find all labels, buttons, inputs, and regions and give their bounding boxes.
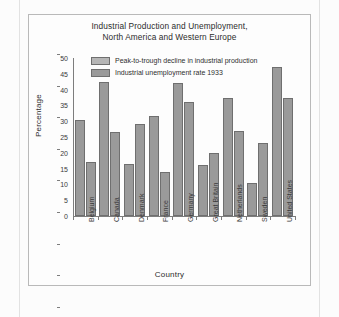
y-tick-mark-10 <box>57 54 60 55</box>
y-tick-mark-5 <box>57 212 60 213</box>
legend-label-1: Industrial unemployment rate 1933 <box>115 69 223 76</box>
legend-swatch-icon-1 <box>91 69 110 77</box>
chart-title-line-2: North America and Western Europe <box>29 32 310 43</box>
y-tick-mark-2 <box>57 307 60 308</box>
x-tick-mark-3 <box>147 216 148 220</box>
y-tick-label-5: 25 <box>60 134 73 141</box>
page-edge-left <box>19 0 20 317</box>
bar-4-series-0 <box>173 83 183 216</box>
y-tick-mark-7 <box>57 149 60 150</box>
chart-figure: Industrial Production and Unemployment, … <box>28 14 311 286</box>
chart-title: Industrial Production and Unemployment, … <box>29 21 310 43</box>
x-tick-mark-end <box>295 216 296 220</box>
x-category-label-5: Great Britain <box>212 183 219 222</box>
legend-label-0: Peak-to-trough decline in industrial pro… <box>115 57 257 64</box>
x-tick-mark-7 <box>246 216 247 220</box>
x-tick-mark-8 <box>270 216 271 220</box>
legend-swatch-icon-0 <box>91 57 110 65</box>
y-tick-mark-8 <box>57 117 60 118</box>
bar-group-1 <box>99 58 121 216</box>
plot-area: 05101520253035404550 <box>73 58 295 216</box>
bar-2-series-0 <box>124 164 134 216</box>
y-tick-label-6: 30 <box>60 118 73 125</box>
bar-7-series-0 <box>247 183 257 216</box>
chart-legend: Peak-to-trough decline in industrial pro… <box>91 55 257 79</box>
x-category-label-0: Belgium <box>88 197 95 222</box>
bar-group-3 <box>149 58 171 216</box>
bar-1-series-0 <box>99 82 109 216</box>
bar-group-0 <box>75 58 97 216</box>
x-tick-mark-6 <box>221 216 222 220</box>
x-tick-mark-4 <box>172 216 173 220</box>
bar-group-2 <box>124 58 146 216</box>
y-tick-label-9: 45 <box>60 70 73 77</box>
x-tick-mark-5 <box>196 216 197 220</box>
y-tick-label-8: 40 <box>60 86 73 93</box>
legend-item-0: Peak-to-trough decline in industrial pro… <box>91 55 257 66</box>
bar-3-series-0 <box>149 116 159 216</box>
y-tick-label-0: 0 <box>64 213 73 220</box>
y-tick-mark-9 <box>57 86 60 87</box>
bar-8-series-0 <box>272 67 282 216</box>
y-tick-label-4: 20 <box>60 149 73 156</box>
page-canvas: Industrial Production and Unemployment, … <box>0 0 339 317</box>
x-axis-label: Country <box>29 270 310 279</box>
bar-6-series-0 <box>223 98 233 217</box>
page-edge-right <box>319 0 320 317</box>
y-tick-label-1: 5 <box>64 197 73 204</box>
x-category-label-4: Germany <box>187 193 194 222</box>
x-tick-mark-2 <box>122 216 123 220</box>
y-tick-label-2: 10 <box>60 181 73 188</box>
x-category-label-3: France <box>162 200 169 222</box>
x-category-label-7: Sweden <box>261 197 268 222</box>
y-tick-label-7: 35 <box>60 102 73 109</box>
bar-group-7 <box>247 58 269 216</box>
y-tick-mark-6 <box>57 180 60 181</box>
y-tick-mark-4 <box>57 244 60 245</box>
x-category-label-6: Netherlands <box>236 184 243 222</box>
x-tick-mark-0 <box>73 216 74 220</box>
bar-0-series-0 <box>75 120 85 216</box>
bar-5-series-0 <box>198 165 208 216</box>
y-tick-label-10: 50 <box>60 55 73 62</box>
y-axis-label: Percentage <box>34 94 43 137</box>
legend-item-1: Industrial unemployment rate 1933 <box>91 67 257 78</box>
chart-title-line-1: Industrial Production and Unemployment, <box>29 21 310 32</box>
x-category-label-1: Canada <box>113 197 120 222</box>
y-tick-label-3: 15 <box>60 165 73 172</box>
x-category-label-2: Denmark <box>138 194 145 222</box>
x-category-label-8: United States <box>286 180 293 222</box>
x-tick-mark-1 <box>98 216 99 220</box>
